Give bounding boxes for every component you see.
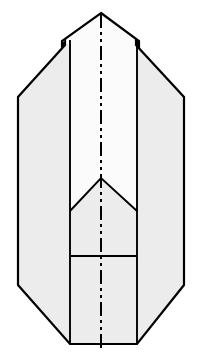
center-lower-panel (70, 256, 137, 344)
drawing-canvas (0, 0, 200, 360)
technical-line-drawing (0, 0, 200, 360)
